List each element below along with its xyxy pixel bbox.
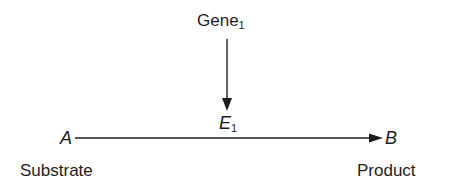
substrate-to-product-arrow bbox=[75, 134, 383, 143]
substrate-symbol: A bbox=[60, 129, 72, 147]
substrate-label: Substrate bbox=[20, 162, 93, 179]
product-symbol: B bbox=[385, 129, 397, 147]
gene-label-text: Gene bbox=[197, 11, 239, 30]
gene-label: Gene1 bbox=[197, 12, 245, 31]
gene-to-enzyme-arrow bbox=[222, 39, 232, 111]
enzyme-subscript: 1 bbox=[231, 122, 237, 134]
product-label: Product bbox=[357, 162, 416, 179]
enzyme-label: E1 bbox=[219, 114, 237, 134]
enzyme-label-text: E bbox=[219, 113, 231, 133]
gene-subscript: 1 bbox=[239, 19, 245, 31]
